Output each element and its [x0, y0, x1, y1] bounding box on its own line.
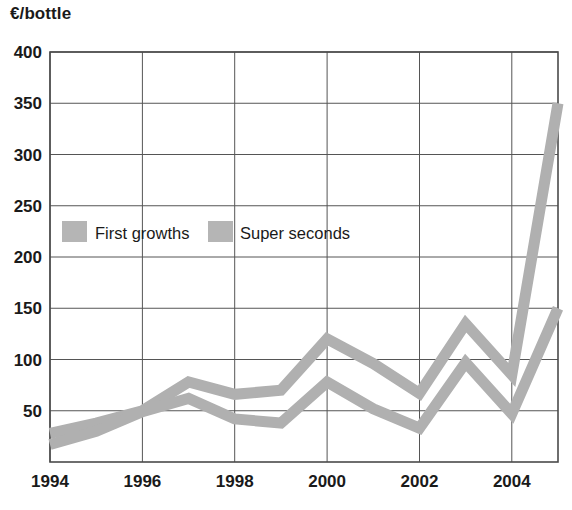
x-tick-2000: 2000 — [308, 472, 346, 491]
y-tick-300: 300 — [14, 146, 42, 165]
y-axis-tick-labels: 400 350 300 250 200 150 100 50 — [14, 43, 42, 421]
x-tick-2004: 2004 — [493, 472, 531, 491]
legend-label-super-seconds: Super seconds — [240, 224, 350, 242]
y-tick-400: 400 — [14, 43, 42, 62]
y-tick-200: 200 — [14, 248, 42, 267]
y-tick-150: 150 — [14, 299, 42, 318]
legend-label-first-growths: First growths — [95, 224, 189, 242]
chart-container: €/bottle — [0, 0, 572, 510]
x-tick-1998: 1998 — [216, 472, 254, 491]
x-tick-1994: 1994 — [31, 472, 69, 491]
y-tick-100: 100 — [14, 351, 42, 370]
y-tick-50: 50 — [23, 402, 42, 421]
x-axis-tick-labels: 1994 1996 1998 2000 2002 2004 — [31, 472, 531, 491]
x-tick-1996: 1996 — [123, 472, 161, 491]
y-tick-350: 350 — [14, 94, 42, 113]
legend-swatch-first-growths — [62, 221, 87, 242]
line-chart-plot: First growths Super seconds 400 350 300 … — [0, 0, 572, 510]
y-tick-250: 250 — [14, 197, 42, 216]
x-tick-2002: 2002 — [401, 472, 439, 491]
legend-swatch-super-seconds — [208, 221, 233, 242]
